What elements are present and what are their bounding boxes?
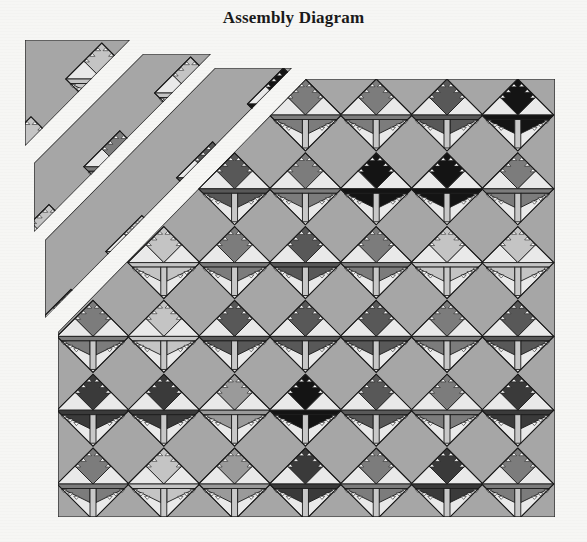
quilt-assembly-illustration: [0, 0, 587, 542]
main-quilt-body: [57, 79, 555, 520]
